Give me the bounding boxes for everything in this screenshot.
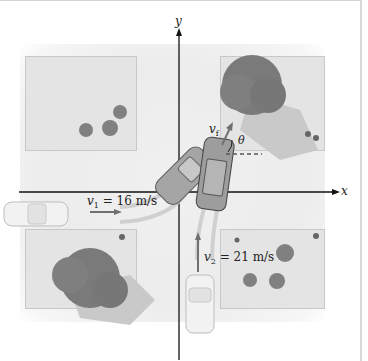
- v1-equals: =: [103, 194, 113, 208]
- vf-label: vf: [209, 122, 219, 138]
- car-1-icon: [4, 202, 68, 226]
- v1-label: v1 = 16 m/s: [87, 194, 157, 210]
- collided-car-2-icon: [195, 136, 235, 211]
- theta-label: θ: [238, 134, 245, 147]
- vf-symbol: v: [209, 122, 216, 136]
- v1-subscript: 1: [94, 201, 99, 210]
- x-axis-arrow-icon: [332, 189, 340, 195]
- v1-speed: 16 m/s: [117, 194, 158, 208]
- diagram-svg: [0, 0, 368, 361]
- y-axis-arrow-icon: [176, 28, 182, 36]
- y-axis-label: y: [175, 14, 182, 28]
- bushes-top-left-icon: [79, 105, 127, 137]
- v2-equals: =: [220, 250, 230, 264]
- v2-subscript: 2: [211, 257, 216, 266]
- car-2-icon: [186, 275, 214, 333]
- vf-subscript: f: [216, 129, 219, 138]
- vf-arrowhead-icon: [226, 122, 233, 131]
- v1-symbol: v: [87, 194, 94, 208]
- v2-speed: 21 m/s: [234, 250, 275, 264]
- tree-bottom-left-icon: [52, 248, 155, 325]
- v2-symbol: v: [204, 250, 211, 264]
- v2-label: v2 = 21 m/s: [204, 250, 274, 266]
- tree-top-right-icon: [220, 55, 318, 160]
- x-axis-label: x: [341, 184, 348, 198]
